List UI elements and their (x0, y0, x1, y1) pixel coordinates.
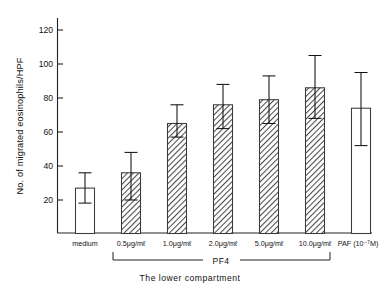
y-axis-title: No. of migrated eosinophils/HPF (15, 57, 25, 194)
y-tick-label-20: 20 (43, 195, 53, 205)
pf4-group-label: PF4 (213, 256, 230, 266)
y-tick-label-80: 80 (43, 93, 53, 103)
x-label-pf4-0-5: 0.5μg/mℓ (117, 239, 146, 248)
bar-group-pf4-1-0 (168, 105, 187, 234)
y-tick-label-100: 100 (39, 59, 54, 69)
x-label-pf4-1-0: 1.0μg/mℓ (163, 239, 192, 248)
x-label-paf: PAF (10⁻⁷M) (338, 239, 379, 248)
bar-chart-svg: 120 100 80 60 40 20 No. of migrated eosi… (0, 0, 379, 288)
chart-caption: The lower compartment (140, 273, 241, 283)
bar-group-pf4-5-0 (260, 76, 279, 234)
x-label-medium: medium (72, 239, 98, 248)
y-tick-label-120: 120 (39, 25, 54, 35)
chart-figure: 120 100 80 60 40 20 No. of migrated eosi… (0, 0, 379, 288)
bar-group-pf4-2-0 (214, 84, 233, 233)
x-label-pf4-10-0: 10.0μg/mℓ (299, 239, 332, 248)
y-tick-label-60: 60 (43, 127, 53, 137)
x-label-pf4-2-0: 2.0μg/mℓ (209, 239, 238, 248)
x-label-pf4-5-0: 5.0μg/mℓ (255, 239, 284, 248)
bar-pf4-1-0 (168, 124, 187, 234)
y-tick-label-40: 40 (43, 161, 53, 171)
